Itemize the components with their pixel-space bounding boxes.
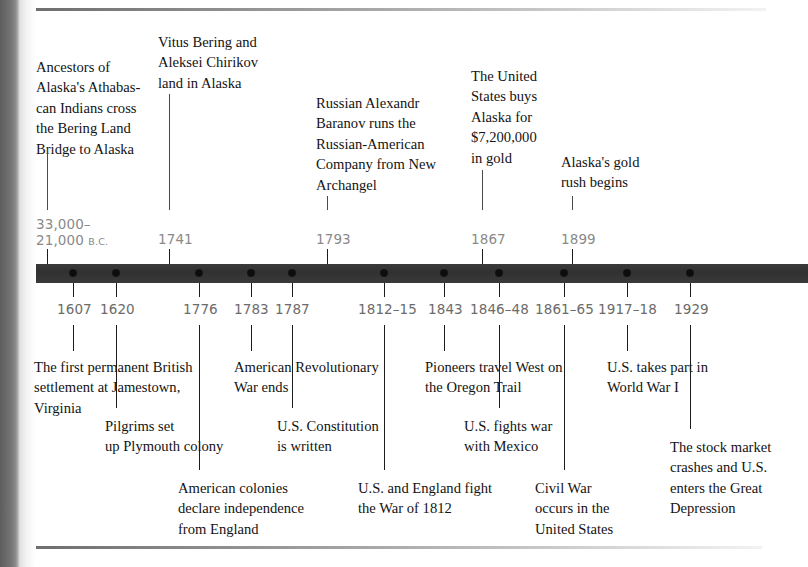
event-below-year-2: 1776 [183,301,218,317]
event-below-year-7: 1846–48 [470,301,529,317]
event-below-stem-lower-4 [292,325,293,408]
timeline-dot-below-7[interactable] [496,270,502,276]
event-above-year-4: 1899 [561,231,596,247]
event-below-stem-lower-2 [199,325,200,470]
event-below-year-9: 1917–18 [598,301,657,317]
event-above-stem-upper-2 [327,196,328,210]
event-below-year-5: 1812–15 [358,301,417,317]
timeline-dot-below-8[interactable] [561,270,567,276]
event-above-text-4: Alaska's goldrush begins [561,152,665,193]
event-below-text-6: Pioneers travel West onthe Oregon Trail [425,357,625,398]
event-above-stem-upper-3 [482,170,483,210]
bc-suffix-0: B.C. [88,236,108,247]
event-below-stem-lower-8 [564,325,565,470]
event-below-year-3: 1783 [234,301,269,317]
event-below-stem-upper-10 [690,283,691,297]
timeline-dot-below-5[interactable] [381,270,387,276]
event-above-year-1: 1741 [158,231,193,247]
event-below-text-4: U.S. Constitutionis written [277,416,467,457]
event-below-stem-upper-3 [251,283,252,297]
event-below-stem-upper-0 [73,283,74,297]
event-below-stem-upper-1 [116,283,117,297]
timeline-dot-below-6[interactable] [441,270,447,276]
event-below-text-7: U.S. fights warwith Mexico [464,416,634,457]
event-above-year-2: 1793 [316,231,351,247]
event-below-stem-upper-8 [564,283,565,297]
event-above-stem-upper-4 [572,196,573,210]
event-below-stem-upper-5 [384,283,385,297]
event-below-text-3: American RevolutionaryWar ends [234,357,434,398]
page-gutter-shadow [0,0,20,567]
timeline-dot-below-10[interactable] [687,270,693,276]
timeline-dot-below-1[interactable] [113,270,119,276]
event-below-stem-lower-9 [627,325,628,351]
top-divider-rule [36,8,766,11]
event-below-stem-lower-3 [251,325,252,351]
event-below-stem-upper-9 [627,283,628,297]
timeline-dot-below-0[interactable] [70,270,76,276]
event-below-stem-upper-7 [499,283,500,297]
event-below-text-1: Pilgrims setup Plymouth colony [105,416,285,457]
timeline-dot-below-3[interactable] [248,270,254,276]
event-below-year-1: 1620 [100,301,135,317]
event-below-stem-lower-7 [499,325,500,408]
event-below-text-10: The stock marketcrashes and U.S.enters t… [670,437,805,519]
event-below-stem-lower-6 [444,325,445,351]
event-below-text-2: American coloniesdeclare independencefro… [178,478,358,539]
timeline-page: Ancestors ofAlaska's Athabas-can Indians… [0,0,808,567]
event-above-stem-upper-1 [169,94,170,210]
event-below-text-9: U.S. takes part inWorld War I [607,357,787,398]
event-below-year-8: 1861–65 [535,301,594,317]
event-below-year-4: 1787 [275,301,310,317]
event-below-stem-lower-10 [690,325,691,429]
bottom-divider-rule [36,546,762,549]
page-gutter-fade [20,0,36,567]
event-below-stem-upper-4 [292,283,293,297]
event-below-text-8: Civil Waroccurs in theUnited States [535,478,685,539]
timeline-dot-below-9[interactable] [624,270,630,276]
timeline-dot-below-4[interactable] [289,270,295,276]
event-below-text-0: The first permanent Britishsettlement at… [34,357,234,418]
event-below-stem-lower-1 [116,325,117,408]
event-above-stem-upper-0 [47,150,48,210]
event-above-text-0: Ancestors ofAlaska's Athabas-can Indians… [36,57,158,159]
event-below-stem-upper-2 [199,283,200,297]
event-above-text-3: The UnitedStates buysAlaska for$7,200,00… [471,66,567,168]
timeline-dot-below-2[interactable] [196,270,202,276]
event-below-year-10: 1929 [674,301,709,317]
event-below-year-6: 1843 [428,301,463,317]
event-above-text-2: Russian AlexandrBaranov runs theRussian-… [316,93,452,195]
event-below-stem-upper-6 [444,283,445,297]
event-above-text-1: Vitus Bering andAleksei Chirikovland in … [158,32,278,93]
event-below-year-0: 1607 [57,301,92,317]
event-below-stem-lower-0 [73,325,74,351]
event-below-text-5: U.S. and England fightthe War of 1812 [358,478,558,519]
event-above-year-3: 1867 [471,231,506,247]
event-below-stem-lower-5 [384,325,385,470]
event-above-year-0: 33,000– 21,000 B.C. [36,216,108,248]
